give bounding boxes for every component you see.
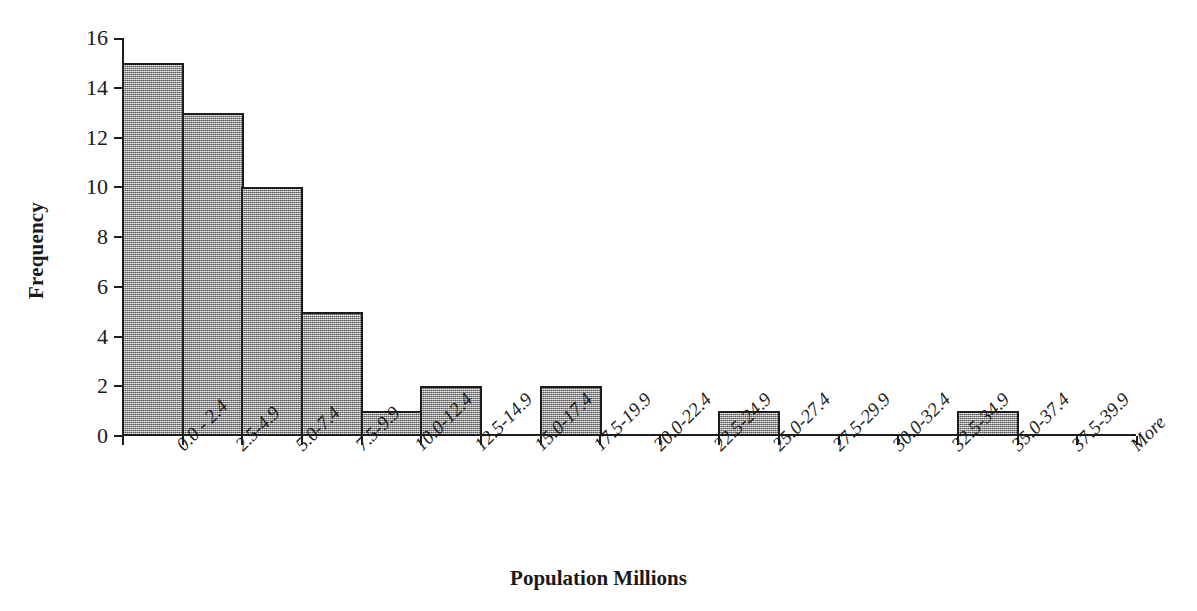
bar bbox=[182, 113, 244, 436]
y-axis-tick-label: 6 bbox=[97, 274, 108, 300]
y-axis-tick-label: 12 bbox=[86, 125, 108, 151]
x-axis-tick-label: 17.5-19.9 bbox=[589, 440, 605, 456]
bar bbox=[122, 63, 184, 436]
y-axis-tick-label: 14 bbox=[86, 75, 108, 101]
x-axis-tick-label: 25.0-27.4 bbox=[768, 440, 784, 456]
y-axis-tick-label: 10 bbox=[86, 174, 108, 200]
x-axis-tick-label: 12.5-14.9 bbox=[470, 440, 486, 456]
x-axis-tick-labels: 0.0 - 2.42.5-4.95.0-7.47.5-9.910.0-12.41… bbox=[122, 440, 1136, 560]
x-axis-tick-label: 32.5-34.9 bbox=[947, 440, 963, 456]
plot-area: 1614121086420 bbox=[122, 38, 1136, 436]
x-axis-tick-label: 0.0 - 2.4 bbox=[172, 440, 188, 456]
x-axis-tick-label: 35.0-37.4 bbox=[1007, 440, 1023, 456]
y-axis-tick-label: 4 bbox=[97, 324, 108, 350]
y-axis-tick-label: 8 bbox=[97, 224, 108, 250]
x-axis-tick-label: 7.5-9.9 bbox=[351, 440, 367, 456]
x-axis-tick-label: 5.0-7.4 bbox=[291, 440, 307, 456]
y-axis-tick-label: 16 bbox=[86, 25, 108, 51]
histogram-chart: Frequency 1614121086420 0.0 - 2.42.5-4.9… bbox=[0, 0, 1197, 611]
x-axis-title: Population Millions bbox=[0, 566, 1197, 591]
y-axis-title: Frequency bbox=[22, 155, 52, 345]
bar bbox=[241, 187, 303, 436]
x-axis-tick-label: 10.0-12.4 bbox=[410, 440, 426, 456]
x-axis-tick-label: 20.0-22.4 bbox=[649, 440, 665, 456]
y-axis-tick-label: 0 bbox=[97, 423, 108, 449]
x-axis-tick-label: 37.5-39.9 bbox=[1067, 440, 1083, 456]
x-axis-tick-label: 2.5-4.9 bbox=[231, 440, 247, 456]
x-axis-tick-label: 15.0-17.4 bbox=[530, 440, 546, 456]
y-axis-title-label: Frequency bbox=[25, 201, 50, 298]
x-axis-tick-label: 27.5-29.9 bbox=[828, 440, 844, 456]
y-axis-tick bbox=[114, 38, 123, 40]
x-axis-tick-label: 22.5-24.9 bbox=[709, 440, 725, 456]
x-axis-tick-label: 30.0-32.4 bbox=[888, 440, 904, 456]
y-axis-tick-label: 2 bbox=[97, 373, 108, 399]
x-axis-tick-label: More bbox=[1126, 440, 1142, 456]
